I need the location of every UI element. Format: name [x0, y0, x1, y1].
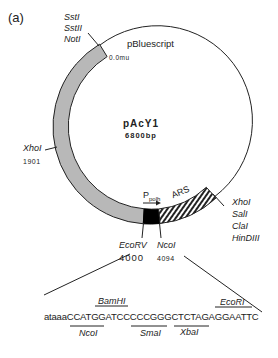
site-position-ecorv: 4000: [119, 252, 144, 263]
site-label-noti: NotI: [64, 34, 81, 45]
backbone-label: pBluescript: [127, 38, 174, 49]
plasmid-size: 6800bp: [101, 131, 181, 140]
plasmid-name: pAcY1: [101, 118, 181, 129]
site-label-ecorv: EcoRV: [119, 240, 147, 251]
promoter-label: Ppolh: [143, 190, 160, 205]
tick-ecorv: [142, 223, 144, 238]
seq-label-ncoi: NcoI: [79, 328, 98, 339]
site-label-xhoi-right: XhoI: [232, 197, 251, 208]
seq-label-smai: SmaI: [140, 328, 161, 339]
sequence-line: ataaaCCATGGATCCCCCGGGCTCTAGAGGAATTC: [44, 311, 259, 322]
seq-label-bamhi: BamHI: [98, 296, 126, 307]
tick-xhoi-right: [213, 194, 224, 206]
site-label-ncoi: NcoI: [157, 240, 176, 251]
tick-ncoi: [160, 223, 162, 238]
site-position-ncoi: 4094: [157, 253, 175, 264]
seq-label-ecori: EcoRI: [220, 297, 245, 308]
site-label-ssti: SstI: [64, 12, 80, 23]
site-label-sstii: SstII: [64, 23, 82, 34]
site-label-hindiii: HinDIII: [232, 233, 260, 244]
sequence-text: CCATGGATCCCCCGGGCTCTAGAGGAATTC: [67, 311, 259, 322]
site-position-xhoi-left: 1901: [23, 156, 41, 167]
expand-line-left: [44, 254, 130, 295]
site-label-clai: ClaI: [232, 221, 248, 232]
origin-label: 0.0mu: [109, 52, 130, 63]
promoter-label-sub: polh: [149, 196, 160, 202]
seq-label-xbai: XbaI: [180, 327, 199, 338]
site-label-sali: SalI: [232, 209, 248, 220]
sequence-prefix: ataaa: [44, 311, 67, 322]
site-label-xhoi-left: XhoI: [23, 143, 42, 154]
promoter-block: [143, 209, 160, 224]
tick-sst: [88, 33, 99, 46]
